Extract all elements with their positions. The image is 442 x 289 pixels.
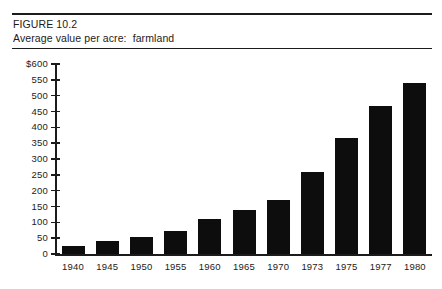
y-axis-tick-label: 500 [2,91,48,101]
bar [369,106,392,254]
y-axis-label-slot: 450 [0,107,48,117]
x-axis-tick-label: 1980 [398,261,432,273]
x-axis-tick-label: 1955 [159,261,193,273]
y-axis-tick-label: 200 [2,186,48,196]
y-axis-label-slot: 0 [0,249,48,259]
bar [164,231,187,254]
y-axis-label-slot: 350 [0,138,48,148]
y-axis-label-slot: 50 [0,233,48,243]
y-axis-label-slot: 550 [0,75,48,85]
bar [267,200,290,254]
y-axis-label-slot: 150 [0,202,48,212]
y-axis-label-slot: 300 [0,154,48,164]
x-axis-tick-label: 1960 [193,261,227,273]
y-axis-tick-label: 250 [2,170,48,180]
y-axis-tick-label: 100 [2,217,48,227]
x-axis-tick-label: 1970 [261,261,295,273]
bar [301,172,324,254]
y-axis-tick-label: $600 [2,59,48,69]
x-axis-tick-label: 1945 [90,261,124,273]
x-axis-line [55,254,432,256]
y-axis-tick-label: 50 [2,233,48,243]
bar [335,138,358,254]
bar [233,210,256,254]
x-axis-tick-label: 1975 [329,261,363,273]
y-axis-label-slot: 200 [0,186,48,196]
x-axis-tick-label: 1965 [227,261,261,273]
x-axis-tick-label: 1950 [124,261,158,273]
y-axis-tick-label: 350 [2,138,48,148]
y-axis-tick-label: 300 [2,154,48,164]
y-axis-label-slot: 400 [0,122,48,132]
y-axis-label-slot: 500 [0,91,48,101]
y-axis-tick-label: 0 [2,249,48,259]
y-axis-tick-label: 450 [2,107,48,117]
y-axis-label-slot: 100 [0,217,48,227]
x-axis-tick-label: 1940 [56,261,90,273]
bar [96,241,119,254]
bar [62,246,85,254]
y-axis-label-slot: $600 [0,59,48,69]
x-axis-tick-label: 1973 [295,261,329,273]
bar [403,83,426,254]
bar-series [56,64,432,254]
bar [130,237,153,254]
bar [198,219,221,254]
figure-container: FIGURE 10.2 Average value per acre: farm… [0,0,442,289]
x-axis-tick-label: 1977 [364,261,398,273]
x-axis-labels: 1940194519501955196019651970197319751977… [56,261,432,275]
y-axis-label-slot: 250 [0,170,48,180]
chart-plot-area: 050100150200250300350400450500550$600 19… [0,0,442,289]
y-axis-tick-label: 400 [2,122,48,132]
y-axis-tick-label: 550 [2,75,48,85]
y-axis-tick-label: 150 [2,202,48,212]
